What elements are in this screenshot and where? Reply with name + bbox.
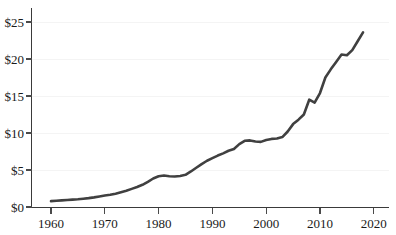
axes [32, 8, 390, 208]
x-tick-label: 1960 [38, 216, 64, 231]
y-tick-label: $0 [11, 200, 24, 215]
data-series [51, 32, 363, 201]
x-tick-label: 2000 [253, 216, 279, 231]
y-tick-label: $15 [5, 89, 25, 104]
y-tick-label: $25 [5, 15, 25, 30]
gridlines [32, 22, 389, 170]
y-axis-ticks: $0$5$10$15$20$25 [5, 15, 32, 215]
y-tick-label: $10 [5, 126, 25, 141]
y-tick-label: $20 [5, 52, 25, 67]
x-tick-label: 2020 [361, 216, 387, 231]
line-chart: $0$5$10$15$20$25 19601970198019902000201… [0, 0, 396, 235]
x-axis-ticks: 1960197019801990200020102020 [38, 208, 387, 232]
x-tick-label: 1990 [199, 216, 225, 231]
x-tick-label: 1980 [146, 216, 172, 231]
x-tick-label: 1970 [92, 216, 118, 231]
y-tick-label: $5 [11, 163, 24, 178]
value-line-series [51, 32, 363, 201]
chart-canvas: $0$5$10$15$20$25 19601970198019902000201… [0, 0, 396, 235]
x-tick-label: 2010 [307, 216, 333, 231]
